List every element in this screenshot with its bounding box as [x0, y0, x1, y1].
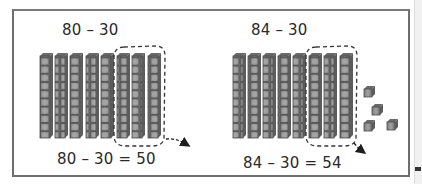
- tens-rod: [40, 53, 53, 138]
- unit-cube: [387, 119, 398, 130]
- tens-rod-removed: [148, 53, 161, 138]
- right-tens-rods: [233, 53, 353, 138]
- tens-rod-removed: [117, 53, 130, 138]
- left-problem-label: 80 – 30: [62, 21, 119, 39]
- tens-rod: [293, 53, 306, 138]
- tens-rod: [70, 53, 83, 138]
- unit-cube: [364, 120, 375, 131]
- tens-rod-removed: [340, 53, 353, 138]
- tens-rod-removed: [309, 53, 322, 138]
- tens-rod: [101, 53, 114, 138]
- right-removal-arrow: [354, 143, 362, 151]
- left-removal-arrow: [166, 139, 186, 144]
- unit-cube: [364, 86, 375, 97]
- tens-rod: [233, 53, 246, 138]
- right-problem-label: 84 – 30: [251, 21, 308, 39]
- tens-rod: [86, 53, 99, 138]
- left-tens-rods: [40, 53, 161, 138]
- right-unit-cubes: [364, 86, 398, 131]
- tens-rod: [263, 53, 276, 138]
- unit-cube: [372, 104, 383, 115]
- tens-rod-removed: [132, 53, 145, 138]
- right-equation-label: 84 – 30 = 54: [243, 154, 342, 172]
- tens-rod: [55, 53, 68, 138]
- left-equation-label: 80 – 30 = 50: [57, 150, 156, 168]
- tens-rod: [248, 53, 261, 138]
- tens-rod-removed: [324, 53, 337, 138]
- tens-rod: [278, 53, 291, 138]
